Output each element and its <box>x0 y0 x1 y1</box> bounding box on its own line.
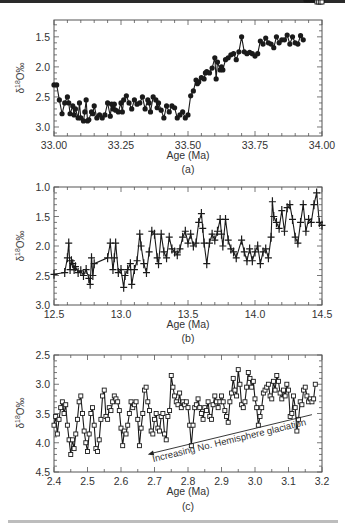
x-tick-label: 3.0 <box>248 475 263 487</box>
data-point-marker <box>154 412 158 416</box>
data-point-marker <box>255 406 259 410</box>
data-point-marker <box>171 385 175 389</box>
data-point-marker <box>156 100 161 105</box>
data-point-marker <box>124 432 128 436</box>
data-point-marker <box>303 385 307 389</box>
data-point-marker <box>117 409 121 413</box>
data-point-marker <box>172 105 177 110</box>
y-tick-label: 4.0 <box>35 437 50 449</box>
data-point-marker <box>238 382 242 386</box>
data-point-marker <box>265 253 272 262</box>
data-point-marker <box>90 111 95 116</box>
data-point-marker <box>82 429 86 433</box>
data-point-marker <box>199 224 206 233</box>
data-point-marker <box>80 412 84 416</box>
data-point-marker <box>126 423 130 427</box>
data-point-marker <box>89 412 93 416</box>
data-point-marker <box>86 450 90 454</box>
data-point-marker <box>147 409 151 413</box>
data-point-marker <box>243 400 247 404</box>
x-tick-label: 33.25 <box>108 139 134 151</box>
data-point-marker <box>206 400 210 404</box>
data-point-marker <box>216 406 220 410</box>
data-point-marker <box>153 417 157 421</box>
data-point-marker <box>236 49 241 54</box>
data-point-marker <box>239 34 244 39</box>
data-point-marker <box>228 400 232 404</box>
data-point-marker <box>209 417 213 421</box>
data-point-marker <box>139 426 143 430</box>
data-point-marker <box>276 379 280 383</box>
panel-b-panel-label: (b) <box>182 332 195 344</box>
panel-a-panel-label: (a) <box>182 163 195 175</box>
data-point-marker <box>320 0 324 4</box>
data-point-marker <box>285 32 290 37</box>
data-point-marker <box>79 394 83 398</box>
data-point-marker <box>52 423 56 427</box>
data-point-marker <box>143 106 148 111</box>
panel-c-y-tick-labels: 2.53.03.54.04.5 <box>35 349 50 478</box>
data-point-marker <box>134 400 138 404</box>
data-point-marker <box>282 37 287 42</box>
data-point-marker <box>131 265 138 274</box>
data-point-marker <box>84 441 88 445</box>
data-point-marker <box>268 233 275 242</box>
y-tick-label: 3.0 <box>35 121 50 133</box>
data-point-marker <box>235 394 239 398</box>
data-point-marker <box>69 452 73 456</box>
data-point-marker <box>57 97 62 102</box>
data-point-marker <box>274 34 279 39</box>
data-point-marker <box>120 283 127 292</box>
y-tick-label: 2.5 <box>35 349 50 361</box>
data-point-marker <box>297 218 304 227</box>
x-tick-label: 3.1 <box>281 475 296 487</box>
data-point-marker <box>109 409 113 413</box>
data-point-marker <box>121 444 125 448</box>
data-point-marker <box>251 379 255 383</box>
x-tick-label: 33.00 <box>41 139 67 151</box>
data-point-marker <box>257 259 264 268</box>
data-point-marker <box>106 417 110 421</box>
panel-a-x-axis-label: Age (Ma) <box>166 149 209 161</box>
data-point-marker <box>292 394 296 398</box>
data-point-marker <box>134 256 141 265</box>
data-point-marker <box>287 41 292 46</box>
data-point-marker <box>166 233 173 242</box>
data-point-marker <box>164 103 169 108</box>
data-point-marker <box>128 280 135 289</box>
data-point-marker <box>234 57 239 62</box>
panel-b-y-tick-labels: 1.01.52.02.53.0 <box>35 181 50 311</box>
data-point-marker <box>180 109 185 114</box>
data-point-marker <box>87 280 94 289</box>
data-point-marker <box>65 423 69 427</box>
data-point-marker <box>166 414 170 418</box>
data-point-marker <box>86 117 91 122</box>
data-point-marker <box>158 230 165 239</box>
data-point-marker <box>104 253 111 262</box>
x-tick-label: 2.4 <box>47 475 62 487</box>
data-point-marker <box>204 409 208 413</box>
data-point-marker <box>287 388 291 392</box>
data-point-marker <box>64 403 68 407</box>
data-point-marker <box>312 397 316 401</box>
data-point-marker <box>173 394 177 398</box>
x-tick-label: 2.5 <box>80 475 95 487</box>
data-point-marker <box>233 388 237 392</box>
data-point-marker <box>201 417 205 421</box>
data-point-marker <box>295 41 300 46</box>
data-point-marker <box>141 412 145 416</box>
data-point-marker <box>313 382 317 386</box>
data-point-marker <box>146 400 150 404</box>
data-point-marker <box>310 200 317 209</box>
data-point-marker <box>82 109 87 114</box>
data-point-marker <box>92 423 96 427</box>
data-point-marker <box>112 239 119 248</box>
data-point-marker <box>102 112 107 117</box>
data-point-marker <box>74 432 78 436</box>
data-point-marker <box>199 412 203 416</box>
panel-a-y-axis-label: δ18O‰ <box>14 62 26 93</box>
data-point-marker <box>120 109 125 114</box>
data-point-marker <box>151 432 155 436</box>
x-tick-label: 2.9 <box>214 475 229 487</box>
data-point-marker <box>213 394 217 398</box>
